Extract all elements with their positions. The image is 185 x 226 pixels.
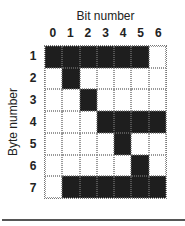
row-label: 2 [26,67,40,89]
bit-cell [97,46,114,68]
bit-cell [97,155,114,177]
bit-cell [97,89,114,111]
bit-cell [45,68,62,90]
bit-cell [62,155,79,177]
bit-cell [149,68,166,90]
bit-cell [45,46,62,68]
bit-cell [149,176,166,198]
row-label: 7 [26,177,40,199]
bit-cell [131,89,148,111]
column-label: 5 [132,26,150,40]
horizontal-divider [2,219,185,221]
bit-cell [45,89,62,111]
bit-cell [62,46,79,68]
bit-cell [114,68,131,90]
bit-cell [114,111,131,133]
bit-cell [80,111,97,133]
bit-cell [62,176,79,198]
bit-cell [62,68,79,90]
column-labels: 0 1 2 3 4 5 6 [44,26,167,40]
bit-cell [131,176,148,198]
row-label: 5 [26,133,40,155]
bit-cell [45,133,62,155]
bit-cell [114,89,131,111]
bit-cell [62,133,79,155]
column-label: 1 [62,26,80,40]
row-label: 3 [26,89,40,111]
bit-cell [114,176,131,198]
bit-cell [131,46,148,68]
column-label: 2 [79,26,97,40]
bit-cell [80,176,97,198]
bit-cell [45,176,62,198]
row-labels: 1 2 3 4 5 6 7 [26,45,40,199]
bit-cell [131,133,148,155]
bit-cell [149,155,166,177]
row-label: 4 [26,111,40,133]
bit-cell [80,46,97,68]
bit-cell [62,89,79,111]
bit-cell [45,155,62,177]
bit-cell [114,155,131,177]
bit-cell [149,133,166,155]
bit-cell [80,155,97,177]
bit-number-title: Bit number [44,9,167,23]
bit-cell [80,89,97,111]
bit-cell [45,111,62,133]
bit-cell [97,133,114,155]
column-label: 4 [114,26,132,40]
bit-cell [114,133,131,155]
bit-cell [114,46,131,68]
bit-cell [131,155,148,177]
column-label: 6 [149,26,167,40]
bit-cell [149,46,166,68]
bit-cell [97,111,114,133]
bit-cell [97,68,114,90]
bit-cell [149,89,166,111]
column-label: 0 [44,26,62,40]
bit-grid [44,45,167,199]
row-label: 1 [26,45,40,67]
bit-cell [97,176,114,198]
bit-cell [131,68,148,90]
bit-cell [149,111,166,133]
bit-cell [62,111,79,133]
bit-cell [80,68,97,90]
column-label: 3 [97,26,115,40]
row-label: 6 [26,155,40,177]
byte-number-label: Byte number [6,77,20,167]
bit-cell [80,133,97,155]
bit-cell [131,111,148,133]
